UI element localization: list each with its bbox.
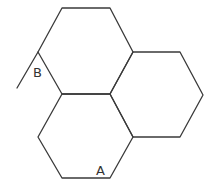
label-a: A <box>96 163 105 178</box>
label-b: B <box>33 65 42 80</box>
top-hexagon <box>38 8 133 94</box>
right-hexagon <box>110 52 203 137</box>
fused-ring-diagram: B A <box>0 0 206 180</box>
bottom-hexagon <box>38 94 133 178</box>
